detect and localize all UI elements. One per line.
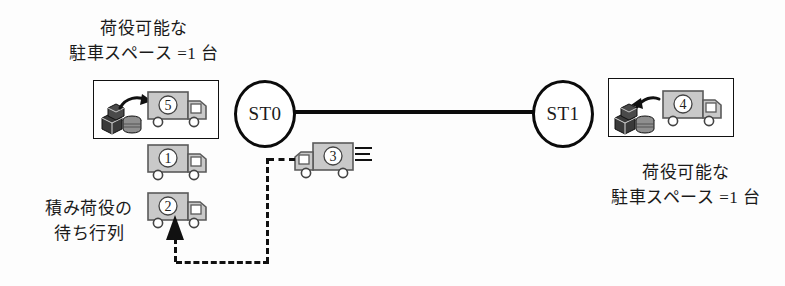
truck-3[interactable]: 3 [288,139,373,183]
left-bay-caption: 荷役可能な 駐車スペース =1 台 [44,16,244,66]
truck-4[interactable]: 4 [662,88,728,131]
route-segment-vertical [266,158,269,263]
route-segment-bottom [176,261,269,264]
left-bay-caption-line2: 駐車スペース =1 台 [44,41,244,66]
route-arrow-icon [166,215,184,240]
truck-3-number: 3 [330,149,337,164]
truck-2-number: 2 [165,199,172,214]
boxes-icon [102,104,141,134]
truck-1[interactable]: 1 [147,142,213,185]
right-bay-caption-line1: 荷役可能な [586,160,785,185]
station-st1-label: ST1 [546,103,579,125]
truck-4-number: 4 [680,97,687,112]
route-segment-top [268,158,295,161]
queue-caption-line2: 待ち行列 [14,221,164,246]
route-segment-riser [174,238,177,262]
truck-5-number: 5 [165,98,172,113]
queue-caption-line1: 積み荷役の [14,196,164,221]
speed-lines-icon [355,148,372,160]
boxes-icon [615,104,654,134]
station-st0[interactable]: ST0 [234,80,296,148]
station-st1[interactable]: ST1 [532,80,594,148]
right-bay-caption-line2: 駐車スペース =1 台 [586,185,785,210]
truck-5[interactable]: 5 [147,89,213,132]
left-bay-caption-line1: 荷役可能な [44,16,244,41]
station-link-line [294,110,534,114]
station-st0-label: ST0 [248,103,281,125]
truck-1-number: 1 [165,151,172,166]
diagram-canvas: 荷役可能な 駐車スペース =1 台 荷役可能な 駐車スペース =1 台 積み荷役… [0,0,785,286]
queue-caption: 積み荷役の 待ち行列 [14,196,164,246]
right-bay-caption: 荷役可能な 駐車スペース =1 台 [586,160,785,210]
